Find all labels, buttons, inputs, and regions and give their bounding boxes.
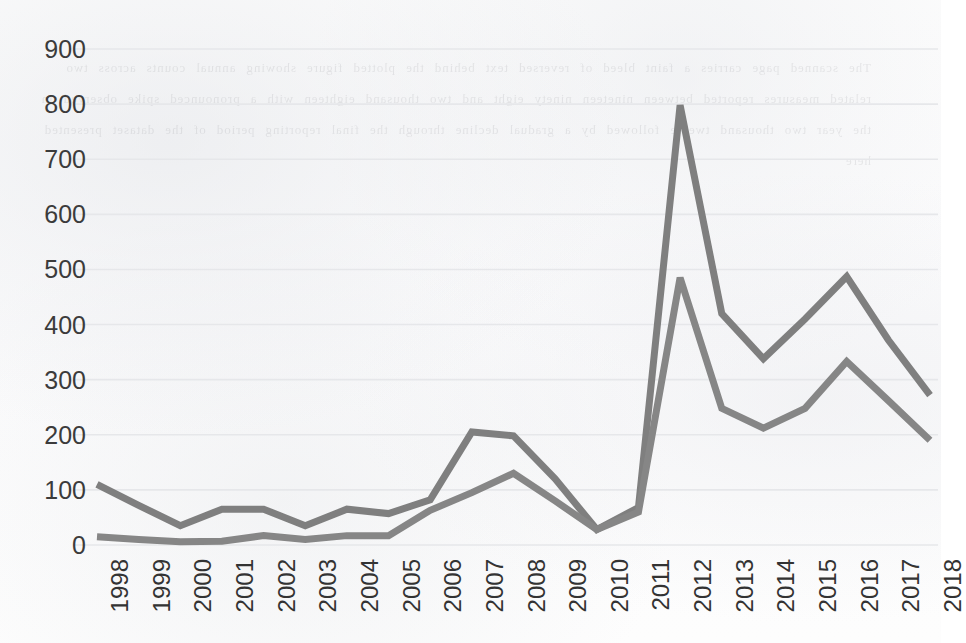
x-axis-tick-label: 1999 <box>148 559 176 612</box>
x-axis-tick-label: 1998 <box>106 559 134 612</box>
x-axis-tick-label: 2018 <box>939 559 966 612</box>
x-axis-tick-label: 2012 <box>689 559 717 612</box>
x-axis-tick-label: 2006 <box>439 559 467 612</box>
x-axis-tick-label: 2010 <box>606 559 634 612</box>
x-axis-tick-label: 2011 <box>647 559 675 611</box>
x-axis-tick-label: 2014 <box>772 559 800 612</box>
x-axis-tick-label: 2016 <box>856 559 884 612</box>
x-axis-tick-label: 2017 <box>897 559 925 612</box>
x-axis-tick-label: 2009 <box>564 559 592 612</box>
x-axis-tick-label: 2004 <box>356 559 384 612</box>
x-axis-tick-label: 2005 <box>398 559 426 612</box>
x-axis-tick-label: 2001 <box>231 559 259 612</box>
x-axis-tick-label: 2007 <box>481 559 509 612</box>
x-axis-tick-label: 2000 <box>189 559 217 612</box>
x-axis-tick-label: 2003 <box>314 559 342 612</box>
x-axis-tick-label: 2002 <box>273 559 301 612</box>
x-axis-tick-label: 2008 <box>523 559 551 612</box>
x-axis-tick-label: 2013 <box>731 559 759 612</box>
x-axis-tick-label: 2015 <box>814 559 842 612</box>
